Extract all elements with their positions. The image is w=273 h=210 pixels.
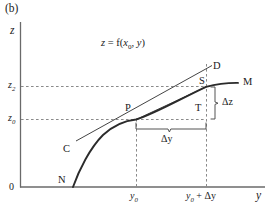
equation-label: z = f(x0, y) xyxy=(101,38,145,51)
y-tick-z2: z2 xyxy=(8,80,15,93)
point-label-P: P xyxy=(125,103,131,114)
delta-z-label: Δz xyxy=(222,97,233,107)
x-tick-y0: y0 xyxy=(130,191,138,204)
y-tick-z2-sub: 2 xyxy=(12,85,15,92)
x-axis-label: y xyxy=(256,190,261,202)
x-tick-y0dy-suffix: + Δy xyxy=(194,190,216,201)
point-label-D: D xyxy=(213,61,221,72)
point-label-C: C xyxy=(63,144,70,155)
panel-label: (b) xyxy=(5,3,18,15)
tangent-line-CD xyxy=(76,66,212,142)
y-tick-z0-sub: 0 xyxy=(12,118,15,125)
point-label-T: T xyxy=(195,103,201,114)
delta-y-bracket xyxy=(136,123,206,132)
delta-z-bracket xyxy=(211,87,218,119)
origin-tick-label: 0 xyxy=(9,182,14,192)
function-curve-NPSM xyxy=(73,83,238,187)
x-tick-y0-sub: 0 xyxy=(134,196,137,203)
point-label-N: N xyxy=(58,175,66,186)
guide-lines-group xyxy=(21,64,207,187)
x-tick-y0-plus-dy: y0 + Δy xyxy=(186,191,216,204)
figure-panel-b: (b) z y 0 z = f(x0, y) z2 z0 y0 y0 + Δy … xyxy=(0,0,273,210)
delta-y-label: Δy xyxy=(161,134,172,144)
point-label-S: S xyxy=(199,76,205,87)
y-tick-z0: z0 xyxy=(8,113,15,126)
y-axis-label: z xyxy=(10,25,14,37)
point-label-M: M xyxy=(243,77,252,88)
